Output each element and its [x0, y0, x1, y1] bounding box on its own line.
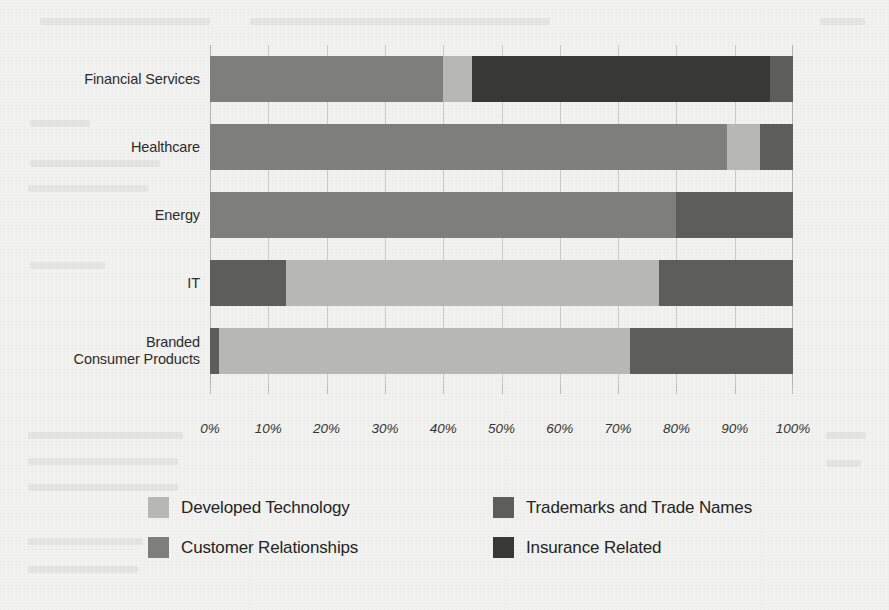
plot-area: [210, 45, 793, 385]
x-tick-label-30pct: 30%: [371, 421, 398, 436]
chart-legend: Developed TechnologyTrademarks and Trade…: [148, 497, 848, 577]
bar-segment[interactable]: [210, 124, 727, 170]
bar-segment[interactable]: [219, 328, 630, 374]
y-axis-label-line: Energy: [4, 207, 200, 224]
bar-row[interactable]: [210, 124, 793, 170]
y-axis-label-4: BrandedConsumer Products: [4, 334, 200, 368]
bar-segment[interactable]: [760, 124, 793, 170]
x-tick-label-0pct: 0%: [200, 421, 220, 436]
x-tick-label-40pct: 40%: [430, 421, 457, 436]
bar-segment[interactable]: [630, 328, 793, 374]
y-axis-label-0: Financial Services: [4, 71, 200, 88]
y-axis-label-line: Healthcare: [4, 139, 200, 156]
legend-label: Customer Relationships: [181, 538, 358, 558]
y-axis-label-line: IT: [4, 275, 200, 292]
legend-label: Insurance Related: [526, 538, 661, 558]
bar-segment[interactable]: [210, 260, 286, 306]
x-axis-tick-30pct: [385, 385, 386, 394]
x-axis-tick-40pct: [443, 385, 444, 394]
bar-segment[interactable]: [676, 192, 793, 238]
legend-label: Trademarks and Trade Names: [526, 498, 752, 518]
x-tick-label-90pct: 90%: [721, 421, 748, 436]
bar-row[interactable]: [210, 260, 793, 306]
x-tick-label-80pct: 80%: [663, 421, 690, 436]
y-axis-category-labels: Financial ServicesHealthcareEnergyITBran…: [0, 45, 200, 385]
x-axis-tick-60pct: [560, 385, 561, 394]
legend-swatch-icon: [148, 497, 169, 518]
bar-segment[interactable]: [286, 260, 659, 306]
bar-row[interactable]: [210, 328, 793, 374]
x-tick-label-20pct: 20%: [313, 421, 340, 436]
legend-label: Developed Technology: [181, 498, 350, 518]
x-tick-label-70pct: 70%: [605, 421, 632, 436]
legend-swatch-icon: [493, 537, 514, 558]
bar-row[interactable]: [210, 192, 793, 238]
bar-segment[interactable]: [770, 56, 793, 102]
x-tick-label-10pct: 10%: [255, 421, 282, 436]
x-axis-tick-10pct: [268, 385, 269, 394]
y-axis-label-line: Financial Services: [4, 71, 200, 88]
y-axis-label-line: Branded: [4, 334, 200, 351]
x-axis-tick-80pct: [676, 385, 677, 394]
x-tick-label-60pct: 60%: [546, 421, 573, 436]
x-axis-tick-100pct: [792, 385, 793, 394]
x-tick-label-100pct: 100%: [776, 421, 811, 436]
bar-row[interactable]: [210, 56, 793, 102]
y-axis-label-1: Healthcare: [4, 139, 200, 156]
legend-item[interactable]: Insurance Related: [493, 537, 661, 558]
bar-segment[interactable]: [472, 56, 769, 102]
legend-item[interactable]: Developed Technology: [148, 497, 350, 518]
bar-segment[interactable]: [443, 56, 472, 102]
bar-segment[interactable]: [727, 124, 760, 170]
y-axis-label-3: IT: [4, 275, 200, 292]
y-axis-label-2: Energy: [4, 207, 200, 224]
legend-item[interactable]: Customer Relationships: [148, 537, 358, 558]
bar-segment[interactable]: [659, 260, 793, 306]
x-axis-tick-90pct: [735, 385, 736, 394]
y-axis-label-line: Consumer Products: [4, 351, 200, 368]
bar-segment[interactable]: [210, 328, 219, 374]
stacked-bar-chart: Financial ServicesHealthcareEnergyITBran…: [0, 0, 889, 610]
x-tick-label-50pct: 50%: [488, 421, 515, 436]
bar-segment[interactable]: [210, 192, 676, 238]
legend-swatch-icon: [493, 497, 514, 518]
legend-item[interactable]: Trademarks and Trade Names: [493, 497, 752, 518]
x-axis-tick-20pct: [327, 385, 328, 394]
bar-segment[interactable]: [210, 56, 443, 102]
x-axis-tick-50pct: [502, 385, 503, 394]
legend-swatch-icon: [148, 537, 169, 558]
x-axis-tick-0pct: [210, 385, 211, 394]
x-axis-tick-70pct: [618, 385, 619, 394]
